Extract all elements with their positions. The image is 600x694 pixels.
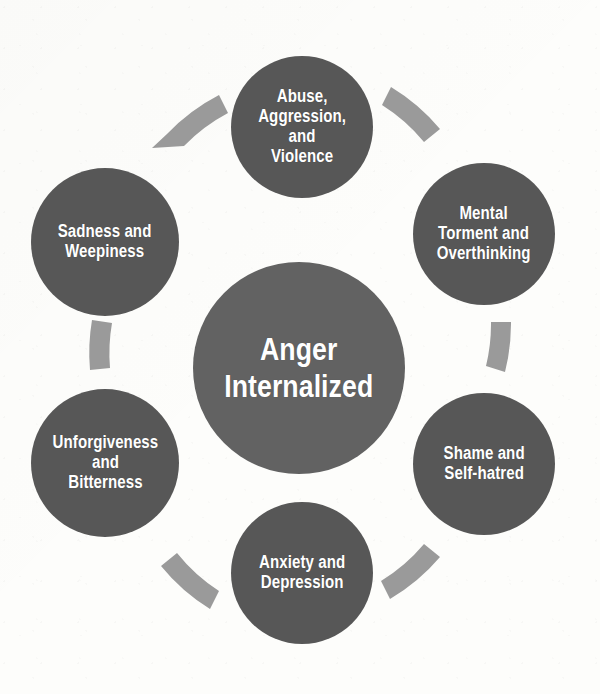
connector-arc-sadness-to-abuse	[152, 95, 228, 148]
connector-arc-unforgiveness-to-sadness	[89, 320, 112, 370]
connector-arc-shame-to-anxiety	[381, 544, 440, 599]
cycle-node-shame[interactable]: Shame and Self-hatred	[413, 393, 555, 535]
cycle-node-mental-torment-label: Mental Torment and Overthinking	[437, 204, 531, 264]
connector-arc-abuse-to-mental	[382, 87, 440, 142]
cycle-node-abuse-label: Abuse, Aggression, and Violence	[258, 87, 346, 167]
cycle-node-unforgiveness-label: Unforgiveness and Bitterness	[52, 433, 158, 493]
cycle-node-sadness-label: Sadness and Weepiness	[58, 222, 152, 262]
cycle-node-unforgiveness[interactable]: Unforgiveness and Bitterness	[31, 389, 179, 537]
cycle-node-anxiety[interactable]: Anxiety and Depression	[231, 502, 373, 644]
cycle-diagram: Abuse, Aggression, and Violence Mental T…	[0, 0, 600, 694]
cycle-node-shame-label: Shame and Self-hatred	[443, 444, 524, 484]
cycle-center-node-label: Anger Internalized	[224, 331, 373, 405]
cycle-node-anxiety-label: Anxiety and Depression	[259, 553, 345, 593]
cycle-node-mental-torment[interactable]: Mental Torment and Overthinking	[413, 163, 555, 305]
cycle-center-node[interactable]: Anger Internalized	[193, 262, 405, 474]
connector-arc-mental-to-shame	[486, 322, 511, 372]
cycle-node-abuse[interactable]: Abuse, Aggression, and Violence	[231, 56, 373, 198]
cycle-node-sadness[interactable]: Sadness and Weepiness	[31, 168, 179, 316]
connector-arc-anxiety-to-unforgiveness	[161, 553, 219, 609]
